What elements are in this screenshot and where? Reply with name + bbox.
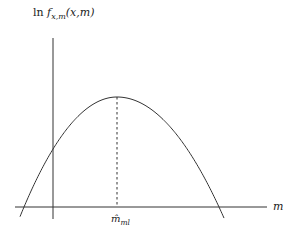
- peak-label-base: m̂: [111, 213, 120, 224]
- y-axis-label-prefix: ln: [33, 6, 47, 19]
- peak-label-subscript: ml: [120, 218, 130, 227]
- y-axis-label-args: (x,m): [66, 6, 95, 19]
- x-axis-label: m: [273, 200, 283, 213]
- y-axis-label-subscript: x,m: [51, 12, 66, 21]
- log-likelihood-curve: [20, 97, 224, 218]
- y-axis-label: ln fx,m(x,m): [33, 6, 95, 21]
- log-likelihood-diagram: ln fx,m(x,m) m m̂ml: [0, 0, 292, 234]
- peak-label: m̂ml: [111, 213, 131, 227]
